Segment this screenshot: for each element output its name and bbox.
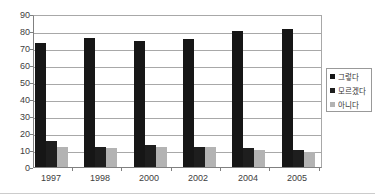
x-axis-tick-label: 2005: [275, 173, 319, 183]
gridline-y-20: [34, 135, 321, 136]
y-axis-tick: [30, 66, 33, 67]
bar-2000-series1: [134, 41, 145, 167]
legend-label: 아니다: [338, 99, 359, 110]
plot-area: [33, 15, 322, 168]
y-axis-tick: [30, 32, 33, 33]
x-axis-tick-label: 2004: [226, 173, 270, 183]
legend-swatch-icon: [330, 74, 335, 79]
y-axis-tick: [30, 83, 33, 84]
x-axis-tick: [269, 168, 270, 171]
y-axis-tick: [30, 151, 33, 152]
bar-2002-series2: [194, 147, 205, 167]
legend-item-2: 모르겠다: [330, 85, 368, 96]
bottom-divider: [0, 193, 375, 194]
y-axis-tick: [30, 168, 33, 169]
x-axis-tick-label: 1997: [29, 173, 73, 183]
y-axis-tick-label: 20: [0, 129, 30, 139]
bar-1997-series1: [35, 43, 46, 167]
bar-2005-series2: [293, 150, 304, 167]
gridline-y-30: [34, 118, 321, 119]
bar-2000-series2: [145, 145, 156, 167]
x-axis-tick: [220, 168, 221, 171]
y-axis-tick-label: 90: [0, 10, 30, 20]
y-axis-tick-label: 40: [0, 95, 30, 105]
bar-chart: 0102030405060708090 19971998200020022004…: [0, 0, 375, 195]
x-axis-tick-label: 2002: [176, 173, 220, 183]
x-axis-tick-label: 2000: [127, 173, 171, 183]
gridline-y-50: [34, 84, 321, 85]
y-axis-tick-label: 10: [0, 146, 30, 156]
y-axis-tick-label: 60: [0, 61, 30, 71]
bar-2002-series3: [205, 147, 216, 167]
y-axis-tick-label: 50: [0, 78, 30, 88]
legend-label: 그렇다: [338, 71, 359, 82]
x-axis-tick: [171, 168, 172, 171]
y-axis-tick: [30, 100, 33, 101]
y-axis-tick-label: 80: [0, 27, 30, 37]
y-axis-tick: [30, 117, 33, 118]
gridline-y-70: [34, 50, 321, 51]
bar-2002-series1: [183, 39, 194, 167]
legend-swatch-icon: [330, 88, 335, 93]
gridline-y-40: [34, 101, 321, 102]
gridline-y-80: [34, 33, 321, 34]
bar-1998-series2: [95, 147, 106, 167]
x-axis-tick: [121, 168, 122, 171]
legend: 그렇다모르겠다아니다: [326, 68, 372, 112]
y-axis-tick-label: 0: [0, 163, 30, 173]
x-axis-tick: [72, 168, 73, 171]
legend-item-3: 아니다: [330, 99, 368, 110]
y-axis-tick-label: 30: [0, 112, 30, 122]
bar-2005-series3: [304, 152, 315, 167]
bar-2004-series2: [243, 148, 254, 167]
x-axis-tick: [319, 168, 320, 171]
legend-swatch-icon: [330, 102, 335, 107]
y-axis-tick-label: 70: [0, 44, 30, 54]
bar-1997-series2: [46, 141, 57, 167]
legend-label: 모르겠다: [338, 85, 366, 96]
bar-2004-series1: [232, 31, 243, 167]
x-axis-tick-label: 1998: [78, 173, 122, 183]
y-axis-tick: [30, 49, 33, 50]
bar-1998-series1: [84, 38, 95, 167]
gridline-y-60: [34, 67, 321, 68]
legend-item-1: 그렇다: [330, 71, 368, 82]
gridline-y-10: [34, 152, 321, 153]
bar-1997-series3: [57, 147, 68, 167]
y-axis-tick: [30, 15, 33, 16]
bar-1998-series3: [106, 148, 117, 167]
y-axis-tick: [30, 134, 33, 135]
bar-2004-series3: [254, 150, 265, 167]
bar-2005-series1: [282, 29, 293, 167]
bar-2000-series3: [156, 147, 167, 167]
